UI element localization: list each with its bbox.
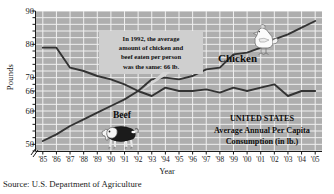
x-tick-y05: '05 (303, 155, 327, 164)
title-line-2: Average Annual Per Capita (196, 125, 328, 137)
y-tick-50: 50 (14, 140, 34, 148)
y-tick-60: 60 (14, 107, 34, 115)
title-line-3: Consumption (in lb.) (196, 136, 328, 148)
callout-line-4: was the same: 66 lb. (101, 62, 201, 71)
chicken-illustration-icon (247, 22, 281, 56)
chart-title-block: UNITED STATES Average Annual Per Capita … (196, 113, 328, 148)
x-axis-title: Year (0, 166, 334, 176)
cow-illustration-icon (99, 120, 141, 150)
series-label-beef: Beef (113, 110, 131, 120)
y-tick-90: 90 (14, 7, 34, 15)
y-tick-66: 66 (14, 87, 34, 95)
source-caption: Source: U.S. Department of Agriculture (3, 179, 141, 189)
y-tick-80: 80 (14, 40, 34, 48)
y-tick-70: 70 (14, 73, 34, 81)
title-line-1: UNITED STATES (196, 113, 328, 125)
callout-pointer (135, 72, 175, 94)
callout-line-2: amount of chicken and (101, 43, 201, 52)
callout-line-3: beef eaten per person (101, 52, 201, 61)
callout-line-1: In 1992, the average (101, 34, 201, 43)
crossing-callout: In 1992, the average amount of chicken a… (99, 31, 203, 74)
chart-figure: Pounds 506066708090 '85'86'87'88'89'90'9… (0, 0, 334, 194)
